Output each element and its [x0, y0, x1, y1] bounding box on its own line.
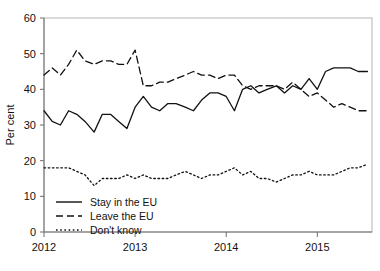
y-tick-label-0: 0: [30, 226, 36, 238]
chart-canvas: 01020304050602012201320142015Per centSta…: [0, 0, 380, 271]
y-tick-label-20: 20: [24, 155, 36, 167]
series-line-0: [44, 68, 367, 132]
x-tick-label-2015: 2015: [305, 241, 329, 253]
legend-label-2: Don't know: [90, 224, 142, 236]
y-tick-label-60: 60: [24, 12, 36, 24]
line-chart-eu-referendum-polling: 01020304050602012201320142015Per centSta…: [0, 0, 380, 271]
y-tick-label-30: 30: [24, 119, 36, 131]
legend-label-0: Stay in the EU: [90, 196, 157, 208]
x-tick-label-2012: 2012: [32, 241, 56, 253]
y-tick-label-50: 50: [24, 48, 36, 60]
x-tick-label-2013: 2013: [123, 241, 147, 253]
y-axis-label: Per cent: [4, 105, 16, 146]
series-line-1: [44, 50, 367, 111]
y-tick-label-40: 40: [24, 83, 36, 95]
series-line-2: [44, 164, 367, 185]
y-tick-label-10: 10: [24, 190, 36, 202]
x-tick-label-2014: 2014: [214, 241, 238, 253]
legend-label-1: Leave the EU: [90, 210, 154, 222]
